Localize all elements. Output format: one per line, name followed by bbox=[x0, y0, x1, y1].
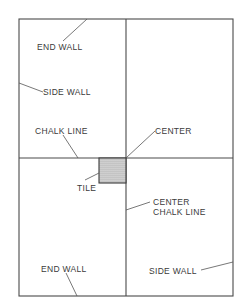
tile-leader bbox=[85, 173, 99, 180]
side-wall-left-leader bbox=[19, 83, 43, 92]
end-wall-top-label: END WALL bbox=[37, 42, 83, 52]
tile-label: TILE bbox=[77, 183, 96, 193]
center-chalk-line-label-2: CHALK LINE bbox=[153, 207, 206, 217]
side-wall-left-label: SIDE WALL bbox=[43, 87, 91, 97]
tile bbox=[99, 158, 126, 183]
center-chalk-line-leader bbox=[126, 202, 150, 210]
side-wall-right-leader bbox=[201, 262, 233, 270]
chalk-line-leader bbox=[63, 135, 78, 158]
side-wall-right-label: SIDE WALL bbox=[149, 266, 197, 276]
end-wall-bottom-leader bbox=[66, 273, 77, 296]
end-wall-bottom-label: END WALL bbox=[41, 264, 87, 274]
center-leader bbox=[126, 131, 155, 158]
end-wall-top-leader bbox=[63, 19, 87, 41]
floor-layout-diagram: END WALL SIDE WALL CHALK LINE CENTER TIL… bbox=[0, 0, 246, 303]
center-chalk-line-label-1: CENTER bbox=[153, 197, 190, 207]
chalk-line-label: CHALK LINE bbox=[35, 126, 88, 136]
center-label: CENTER bbox=[155, 126, 192, 136]
